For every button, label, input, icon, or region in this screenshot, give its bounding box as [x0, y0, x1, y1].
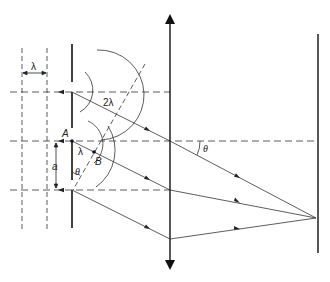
label-theta-slit: θ [75, 166, 80, 177]
label-2lambda: 2λ [103, 97, 114, 108]
huygens-wavelets [80, 50, 144, 187]
label-theta-lens: θ [203, 143, 208, 154]
label-point-a: A [61, 128, 69, 139]
diffraction-diagram: λ [0, 0, 330, 282]
incident-wavefronts [22, 48, 47, 232]
incident-arrows [58, 90, 64, 192]
wavelength-label: λ [31, 61, 36, 72]
focused-rays [170, 141, 316, 239]
lens-arrow-up-icon [165, 14, 175, 24]
ray-arrows-right [234, 173, 240, 230]
ray-arrows-left [144, 126, 150, 229]
point-b-marker [92, 150, 96, 154]
point-a-marker [70, 139, 74, 143]
diffracted-rays [72, 92, 170, 239]
label-slit-width: a [52, 161, 58, 172]
angle-arc-lens [197, 141, 200, 155]
label-lambda: λ [78, 146, 83, 157]
oblique-wavefront [73, 64, 145, 190]
lens-arrow-down-icon [165, 260, 175, 270]
label-point-b: B [95, 156, 102, 167]
